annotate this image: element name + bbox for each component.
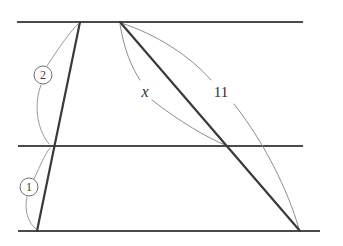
right-transversal [120,22,300,231]
callout-1-leader-lower [26,197,36,229]
callout-1-label: 1 [26,180,32,194]
callout-2-label: 2 [40,68,46,82]
measure-label-x: x [140,83,148,100]
left-transversal [37,22,80,231]
geometry-diagram: 2 1 x 11 [0,0,343,246]
diagram-canvas: 2 1 x 11 [0,0,343,246]
callout-2-leader-lower [37,85,49,144]
measure-arc-x-lower [152,100,225,145]
measure-label-11: 11 [214,84,228,100]
